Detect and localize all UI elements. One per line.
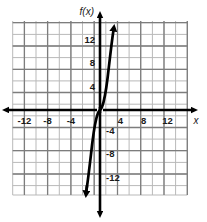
function-curve-lower-arrow (86, 186, 87, 192)
y-tick-label--4: -4 (106, 125, 115, 136)
y-tick-label-4: 4 (90, 81, 96, 92)
coordinate-plane: -12 -8 -4 4 8 12 12 8 4 -4 -8 -12 f(x) x (0, 0, 207, 222)
y-tick-label-12: 12 (84, 34, 95, 45)
x-tick-label--12: -12 (18, 115, 32, 126)
y-axis-label: f(x) (80, 6, 94, 17)
graph-figure: -12 -8 -4 4 8 12 12 8 4 -4 -8 -12 f(x) x (0, 0, 207, 222)
x-tick-label-4: 4 (118, 115, 124, 126)
x-tick-label--8: -8 (43, 115, 51, 126)
x-tick-label--4: -4 (67, 115, 76, 126)
x-tick-label-12: 12 (162, 115, 173, 126)
y-tick-label--8: -8 (106, 148, 114, 159)
y-tick-label-8: 8 (90, 57, 95, 68)
y-tick-label--12: -12 (106, 172, 120, 183)
x-axis-label: x (193, 115, 200, 126)
x-tick-label-8: 8 (141, 115, 146, 126)
